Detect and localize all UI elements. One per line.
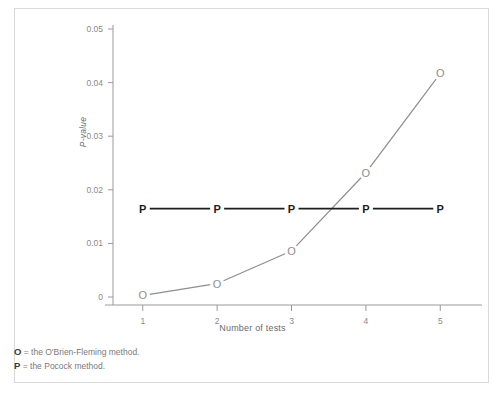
y-tick-label: 0.01: [86, 238, 103, 248]
y-axis-label-text: P-value: [78, 117, 88, 147]
x-axis-label: Number of tests: [15, 323, 490, 333]
y-tick-label: 0.02: [86, 185, 103, 195]
marker-pocock: P: [139, 203, 146, 215]
legend-sep-p: =: [20, 361, 30, 371]
y-tick-label: 0.04: [86, 78, 103, 88]
series-segment-o: [150, 285, 211, 295]
marker-obrien-fleming: O: [287, 245, 296, 257]
y-tick-label: 0.03: [86, 131, 103, 141]
series-segment-o: [224, 254, 286, 281]
marker-obrien-fleming: O: [362, 167, 371, 179]
legend-notes: O = the O'Brien-Fleming method. P = the …: [14, 345, 139, 373]
figure-frame: 00.010.020.030.040.0512345OOOOOPPPPP P-v…: [14, 8, 489, 383]
y-tick-label: 0.05: [86, 24, 103, 34]
legend-note-p: P = the Pocock method.: [14, 359, 139, 373]
legend-text-p: the Pocock method.: [30, 361, 105, 371]
series-segment-o: [296, 178, 361, 246]
series-segment-o: [370, 79, 436, 167]
legend-sep-o: =: [21, 347, 31, 357]
marker-obrien-fleming: O: [138, 289, 147, 301]
legend-text-o: the O'Brien-Fleming method.: [31, 347, 139, 357]
y-axis-label: P-value: [78, 102, 88, 162]
marker-pocock: P: [288, 203, 295, 215]
legend-note-o: O = the O'Brien-Fleming method.: [14, 345, 139, 359]
marker-pocock: P: [213, 203, 220, 215]
marker-obrien-fleming: O: [213, 278, 222, 290]
y-tick-label: 0: [98, 292, 103, 302]
marker-pocock: P: [437, 203, 444, 215]
clipped-header-strip: [0, 0, 503, 7]
marker-pocock: P: [362, 203, 369, 215]
marker-obrien-fleming: O: [436, 67, 445, 79]
